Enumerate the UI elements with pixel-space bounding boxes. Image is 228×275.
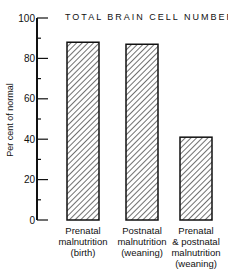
y-tick-label: 80 <box>24 53 36 64</box>
y-tick-label: 100 <box>18 13 35 24</box>
chart-title: TOTAL BRAIN CELL NUMBER <box>65 12 228 22</box>
category-label: Prenatal& postnatalmalnutrition(weaning) <box>161 225 228 269</box>
y-tick-label: 0 <box>29 215 35 226</box>
bar <box>180 137 212 220</box>
y-tick-label: 20 <box>24 174 36 185</box>
bar <box>126 44 158 220</box>
y-tick-label: 60 <box>24 93 36 104</box>
y-axis-label: Per cent of normal <box>5 83 15 157</box>
bars <box>67 42 212 220</box>
y-tick-label: 40 <box>24 134 36 145</box>
bar <box>67 42 99 220</box>
y-axis: 020406080100 <box>18 13 48 226</box>
